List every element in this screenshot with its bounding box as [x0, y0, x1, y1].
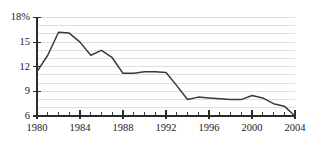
- data-series-line: [37, 32, 295, 116]
- y-axis-tick-label: 18%: [11, 11, 31, 22]
- x-axis-tick-label: 2000: [242, 122, 263, 133]
- gridlines: [37, 18, 295, 117]
- y-axis-tick-labels: 18%151296: [11, 11, 31, 121]
- line-chart: 18%151296 1980198419881992199620002004: [0, 0, 309, 147]
- y-axis-tick-label: 15: [20, 36, 31, 47]
- x-axis-tick-label: 1996: [199, 122, 220, 133]
- x-axis-tick-label: 1988: [113, 122, 134, 133]
- x-axis-major-ticks: [37, 110, 295, 119]
- x-axis-tick-label: 1980: [27, 122, 48, 133]
- y-axis-tick-label: 12: [20, 61, 31, 72]
- x-axis-tick-label: 1984: [70, 122, 92, 133]
- y-axis-tick-label: 9: [25, 85, 30, 96]
- x-axis-tick-label: 1992: [156, 122, 177, 133]
- x-axis-tick-labels: 1980198419881992199620002004: [27, 122, 307, 133]
- chart-canvas: 18%151296 1980198419881992199620002004: [0, 0, 309, 147]
- x-axis-tick-label: 2004: [285, 122, 307, 133]
- y-axis-tick-label: 6: [25, 110, 30, 121]
